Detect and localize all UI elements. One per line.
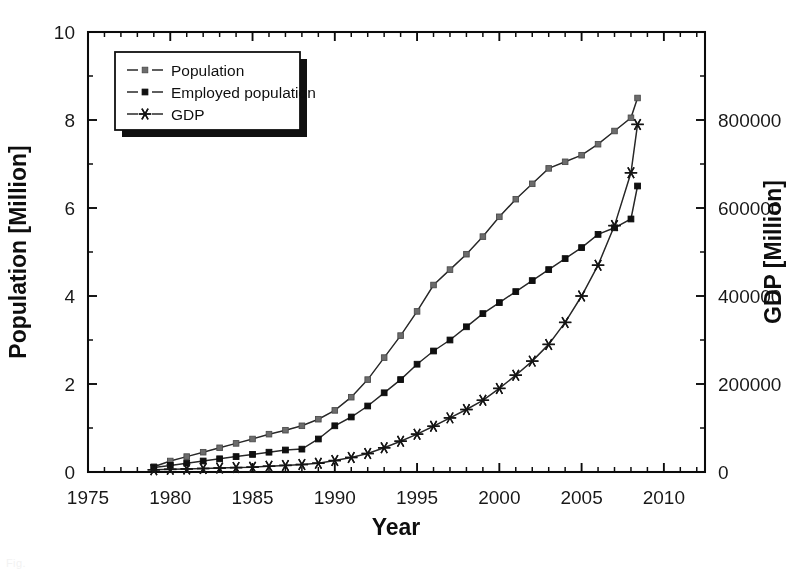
data-point-marker (233, 441, 239, 447)
x-tick-label: 1995 (396, 487, 438, 508)
data-point-marker (628, 115, 634, 121)
x-axis-title: Year (372, 514, 421, 540)
data-point-marker (635, 95, 641, 101)
y-tick-label: 2 (64, 374, 75, 395)
x-tick-label: 2010 (643, 487, 685, 508)
data-point-marker (332, 408, 338, 414)
data-point-marker (348, 394, 354, 400)
data-point-marker (365, 403, 371, 409)
legend-item-label: Population (171, 62, 244, 79)
y-tick-label: 10 (54, 22, 75, 43)
data-point-marker (447, 337, 453, 343)
data-point-marker (348, 414, 354, 420)
data-point-marker (546, 267, 552, 273)
data-point-marker (266, 431, 272, 437)
y-tick-label: 4 (64, 286, 75, 307)
data-point-marker (496, 300, 502, 306)
data-point-marker (200, 449, 206, 455)
data-point-marker (595, 232, 601, 238)
x-tick-label: 1990 (314, 487, 356, 508)
data-point-marker (562, 256, 568, 262)
legend-item-label: GDP (171, 106, 205, 123)
data-point-marker (283, 447, 289, 453)
data-point-marker (299, 423, 305, 429)
data-point-marker (414, 309, 420, 315)
data-point-marker (315, 436, 321, 442)
data-point-marker (529, 181, 535, 187)
data-point-marker (142, 89, 148, 95)
data-point-marker (250, 452, 256, 458)
data-point-marker (332, 423, 338, 429)
legend-item-label: Employed population (171, 84, 316, 101)
data-point-marker (217, 445, 223, 451)
secondary-y-tick-label: 200000 (718, 374, 781, 395)
data-point-marker (529, 278, 535, 284)
y-tick-label: 6 (64, 198, 75, 219)
data-point-marker (635, 183, 641, 189)
data-point-marker (480, 234, 486, 240)
data-point-marker (316, 416, 322, 422)
x-tick-label: 1980 (149, 487, 191, 508)
data-point-marker (381, 355, 387, 361)
faint-caption-artifact: Fig. (6, 557, 26, 569)
data-point-marker (464, 324, 470, 330)
data-point-marker (250, 436, 256, 442)
data-point-marker (464, 251, 470, 257)
x-tick-label: 1985 (231, 487, 273, 508)
data-point-marker (447, 267, 453, 273)
data-point-marker (480, 311, 486, 317)
y-axis-title: Population [Million] (5, 145, 31, 358)
data-point-marker (266, 449, 272, 455)
x-tick-label: 1975 (67, 487, 109, 508)
data-point-marker (217, 456, 223, 462)
data-point-marker (414, 361, 420, 367)
data-point-marker (513, 289, 519, 295)
y-tick-label: 0 (64, 462, 75, 483)
data-point-marker (233, 454, 239, 460)
chart-legend: PopulationEmployed populationGDP (115, 52, 316, 137)
x-tick-label: 2005 (560, 487, 602, 508)
data-point-marker (595, 141, 601, 147)
data-point-marker (365, 377, 371, 383)
secondary-y-axis-title: GDP [Million] (760, 180, 786, 324)
data-point-marker (431, 348, 437, 354)
figure-container: 19751980198519901995200020052010 0246810… (0, 0, 805, 571)
data-point-marker (579, 152, 585, 158)
secondary-y-tick-label: 800000 (718, 110, 781, 131)
data-point-marker (612, 128, 618, 134)
data-point-marker (283, 427, 289, 433)
chart-canvas: 19751980198519901995200020052010 0246810… (0, 0, 805, 571)
data-point-marker (579, 245, 585, 251)
data-point-marker (562, 159, 568, 165)
data-point-marker (200, 458, 206, 464)
data-point-marker (398, 333, 404, 339)
data-point-marker (431, 282, 437, 288)
data-point-marker (184, 454, 190, 460)
data-point-marker (381, 390, 387, 396)
data-point-marker (299, 446, 305, 452)
data-point-marker (398, 377, 404, 383)
data-point-marker (546, 166, 552, 172)
secondary-y-tick-label: 0 (718, 462, 729, 483)
data-point-marker (628, 216, 634, 222)
data-point-marker (497, 214, 503, 220)
data-point-marker (513, 196, 519, 202)
x-tick-label: 2000 (478, 487, 520, 508)
y-tick-label: 8 (64, 110, 75, 131)
data-point-marker (142, 67, 148, 73)
